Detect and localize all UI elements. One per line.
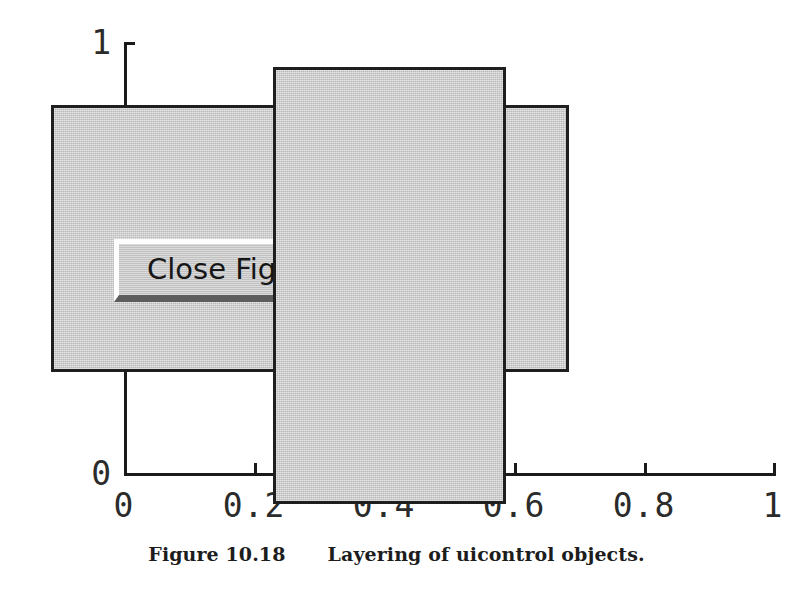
x-tick-mark-1	[773, 463, 776, 474]
x-tick-mark-0.8	[644, 463, 647, 474]
x-tick-mark-0.6	[514, 463, 517, 474]
y-tick-label-0: 0	[91, 454, 112, 493]
x-tick-label-0.8: 0.8	[613, 486, 676, 525]
figure-caption-number: Figure 10.18	[148, 543, 285, 565]
figure-caption-text: Layering of uicontrol objects.	[328, 543, 645, 565]
figure-canvas: 0 0.2 0.4 0.6 0.8 1 1 0.5 0 Close Figure…	[0, 0, 793, 593]
figure-caption: Figure 10.18Layering of uicontrol object…	[0, 543, 793, 565]
y-tick-mark-0	[124, 473, 135, 476]
x-tick-mark-0.2	[254, 463, 257, 474]
y-tick-label-1: 1	[91, 23, 112, 62]
x-tick-label-1: 1	[763, 486, 784, 525]
x-tick-label-0: 0	[114, 486, 135, 525]
uicontrol-frame-front[interactable]	[273, 67, 506, 504]
y-tick-mark-1	[124, 42, 135, 45]
